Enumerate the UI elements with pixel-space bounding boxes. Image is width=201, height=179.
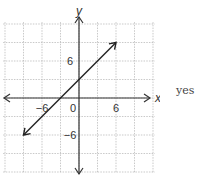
svg-text:0: 0 — [70, 102, 76, 114]
svg-text:6: 6 — [67, 55, 73, 67]
coordinate-plane: −6066−6xy — [0, 0, 160, 179]
axes — [4, 17, 150, 174]
svg-text:y: y — [75, 4, 83, 18]
answer-text: yes — [176, 84, 194, 97]
svg-text:−6: −6 — [64, 129, 77, 141]
svg-text:x: x — [154, 91, 160, 105]
svg-text:−6: −6 — [36, 102, 49, 114]
svg-text:6: 6 — [113, 102, 119, 114]
